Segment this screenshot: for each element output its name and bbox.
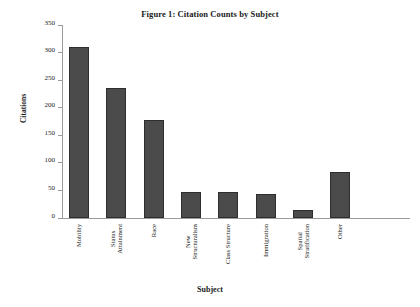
- x-axis-tick-label: Class Structure: [224, 224, 231, 264]
- y-axis-tick-label: 150: [45, 130, 56, 137]
- bar: [330, 172, 350, 218]
- x-axis-tick-label-line: Class Structure: [224, 224, 231, 264]
- y-axis-tick-mark: [58, 162, 62, 163]
- y-axis-tick-mark: [58, 52, 62, 53]
- y-axis-tick-label: 350: [45, 20, 56, 27]
- x-axis-tick-label-holder: SpatialStratification: [293, 224, 313, 290]
- x-axis-line: [62, 218, 410, 219]
- x-axis-tick-label-line: Structuralism: [191, 224, 198, 260]
- y-axis-tick-label: 250: [45, 75, 56, 82]
- y-axis-tick-mark: [58, 80, 62, 81]
- x-axis-tick-label-line: Status: [109, 231, 116, 247]
- y-axis-tick-mark: [58, 135, 62, 136]
- x-axis-tick-label-holder: NewStructuralism: [181, 224, 201, 290]
- x-axis-tick-label-holder: Mobility: [69, 224, 89, 290]
- y-axis-tick-label: 100: [45, 157, 56, 164]
- x-axis-tick-label: Mobility: [75, 224, 82, 247]
- bar: [218, 192, 238, 218]
- bar: [256, 194, 276, 218]
- x-axis-tick-label: Immigration: [262, 224, 269, 257]
- x-axis-tick-label-line: Immigration: [262, 224, 269, 257]
- x-axis-tick-label-line: Attainment: [116, 224, 123, 254]
- x-axis-tick-label: Race: [150, 224, 157, 237]
- y-axis-tick-label: 0: [52, 213, 56, 220]
- x-axis-tick-label: StatusAttainment: [109, 224, 124, 254]
- bar: [69, 47, 89, 218]
- y-axis-tick-mark: [58, 107, 62, 108]
- x-axis-tick-label-line: New: [183, 236, 190, 248]
- x-axis-tick-label-line: Spatial: [295, 232, 302, 250]
- bar: [144, 120, 164, 218]
- x-axis-tick-label: NewStructuralism: [183, 224, 198, 260]
- y-axis-tick-label: 50: [48, 185, 55, 192]
- y-axis-tick-label: 300: [45, 47, 56, 54]
- y-axis-line: [62, 25, 63, 219]
- y-axis-title: Citations: [19, 79, 28, 139]
- x-axis-tick-label-holder: StatusAttainment: [106, 224, 126, 290]
- x-axis-tick-label-holder: Class Structure: [218, 224, 238, 290]
- y-axis-tick-mark: [58, 190, 62, 191]
- x-axis-tick-label-line: Race: [150, 224, 157, 237]
- x-axis-tick-label-line: Mobility: [75, 224, 82, 247]
- x-axis-tick-label-line: Other: [336, 224, 343, 239]
- bar: [293, 210, 313, 218]
- y-axis-tick-mark: [58, 218, 62, 219]
- bar: [106, 88, 126, 218]
- x-axis-tick-label-holder: Immigration: [256, 224, 276, 290]
- x-axis-tick-label: Other: [336, 224, 343, 239]
- chart-title: Figure 1: Citation Counts by Subject: [0, 9, 420, 19]
- y-axis-tick-label: 200: [45, 102, 56, 109]
- figure-container: Figure 1: Citation Counts by Subject Cit…: [0, 0, 420, 307]
- x-axis-title: Subject: [0, 285, 420, 294]
- y-axis-tick-mark: [58, 25, 62, 26]
- bar: [181, 192, 201, 218]
- x-axis-tick-label-holder: Race: [144, 224, 164, 290]
- x-axis-tick-label-holder: Other: [330, 224, 350, 290]
- x-axis-tick-label-line: Stratification: [303, 224, 310, 258]
- x-axis-tick-label: SpatialStratification: [295, 224, 310, 258]
